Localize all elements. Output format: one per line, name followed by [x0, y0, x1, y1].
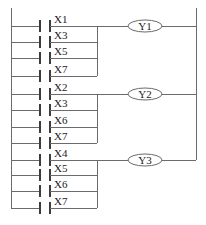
contact-label-x3: X3: [54, 97, 68, 109]
contact-label-x6: X6: [54, 178, 68, 190]
coil-label-y3: Y3: [138, 154, 152, 166]
contact-label-x7: X7: [54, 130, 68, 142]
contact-label-x5: X5: [54, 45, 68, 57]
contact-label-x2: X2: [54, 81, 67, 93]
contact-label-x6: X6: [54, 114, 68, 126]
contact-label-x4: X4: [54, 147, 68, 159]
contact-label-x7: X7: [54, 195, 68, 207]
coil-label-y1: Y1: [138, 20, 151, 32]
ladder-diagram: X1X3X5X7Y1X2X3X6X7Y2X4X5X6X7Y3: [0, 0, 206, 225]
contact-label-x5: X5: [54, 162, 68, 174]
contact-label-x1: X1: [54, 13, 67, 25]
contact-label-x7: X7: [54, 63, 68, 75]
rungs-group: X1X3X5X7Y1X2X3X6X7Y2X4X5X6X7Y3: [11, 13, 196, 214]
coil-label-y2: Y2: [138, 88, 151, 100]
contact-label-x3: X3: [54, 29, 68, 41]
